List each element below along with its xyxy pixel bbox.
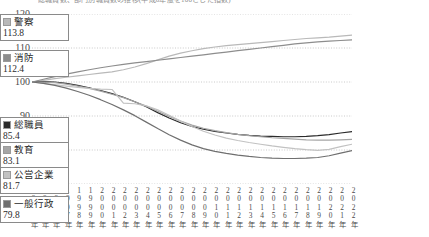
x-axis-tick-label: 2021年	[336, 186, 346, 226]
legend-series-value: 79.8	[3, 210, 66, 221]
legend-swatch-icon	[3, 200, 11, 208]
legend-series-name: 公営企業	[14, 170, 54, 181]
x-axis-tick-label: 2013年	[244, 186, 254, 226]
x-axis-tick-label: 1998年	[73, 186, 83, 226]
series-line	[32, 82, 352, 159]
legend-item-header: 消防	[3, 52, 66, 64]
y-axis-tick-label: 100	[4, 77, 30, 87]
x-axis: 1994年1995年1996年1997年1998年1999年2000年2001年…	[32, 186, 352, 237]
legend-swatch-icon	[3, 146, 11, 154]
x-axis-tick-label: 2002年	[118, 186, 128, 226]
x-axis-tick-label: 2008年	[187, 186, 197, 226]
x-axis-tick-label: 2004年	[141, 186, 151, 226]
x-axis-tick-label: 2019年	[313, 186, 323, 226]
legend-item-1[interactable]: 消防112.4	[0, 50, 69, 77]
series-line	[32, 35, 352, 82]
x-axis-tick-label: 2010年	[210, 186, 220, 226]
x-axis-tick-label: 2003年	[130, 186, 140, 226]
legend-item-header: 警察	[3, 16, 66, 28]
legend-series-value: 83.1	[3, 156, 66, 167]
legend-item-header: 総職員	[3, 119, 66, 131]
x-axis-tick-label: 2001年	[107, 186, 117, 226]
legend-series-value: 112.4	[3, 64, 66, 75]
x-axis-tick-label: 2017年	[290, 186, 300, 226]
x-axis-tick-label: 2009年	[198, 186, 208, 226]
x-axis-tick-label: 2020年	[324, 186, 334, 226]
series-line	[32, 82, 352, 140]
legend-series-value: 81.7	[3, 181, 66, 192]
x-axis-tick-label: 2000年	[96, 186, 106, 226]
legend-swatch-icon	[3, 54, 11, 62]
legend-swatch-icon	[3, 171, 11, 179]
x-axis-tick-label: 2006年	[164, 186, 174, 226]
legend-series-value: 85.4	[3, 131, 66, 142]
legend-series-name: 警察	[14, 17, 34, 28]
legend-item-2[interactable]: 総職員85.4	[0, 117, 69, 144]
x-axis-tick-label: 2022年	[347, 186, 357, 226]
legend-series-name: 総職員	[14, 120, 44, 131]
legend-item-header: 一般行政	[3, 198, 66, 210]
legend-item-5[interactable]: 一般行政79.8	[0, 196, 69, 223]
x-axis-tick-label: 2011年	[221, 186, 231, 226]
chart-caption: 総職員数、部門別職員数の推移(平成6年度を100とした指数)	[38, 0, 348, 4]
legend-series-value: 113.8	[3, 28, 66, 39]
legend-swatch-icon	[3, 18, 11, 26]
chart-container: 総職員数、部門別職員数の推移(平成6年度を100とした指数) 708090100…	[0, 0, 429, 237]
x-axis-tick-label: 2005年	[153, 186, 163, 226]
legend-series-name: 一般行政	[14, 199, 54, 210]
x-axis-tick-label: 2007年	[176, 186, 186, 226]
x-axis-tick-label: 2018年	[301, 186, 311, 226]
x-axis-tick-label: 2014年	[256, 186, 266, 226]
x-axis-tick-label: 2016年	[278, 186, 288, 226]
series-lines	[32, 14, 352, 184]
legend-item-3[interactable]: 教育83.1	[0, 142, 69, 169]
legend-series-name: 教育	[14, 145, 34, 156]
legend-item-4[interactable]: 公営企業81.7	[0, 167, 69, 194]
x-axis-tick-label: 2015年	[267, 186, 277, 226]
plot-area	[32, 14, 352, 184]
legend-item-header: 教育	[3, 144, 66, 156]
x-axis-tick-label: 2012年	[233, 186, 243, 226]
legend-item-0[interactable]: 警察113.8	[0, 14, 69, 41]
legend-swatch-icon	[3, 121, 11, 129]
legend-item-header: 公営企業	[3, 169, 66, 181]
legend-series-name: 消防	[14, 53, 34, 64]
x-axis-tick-label: 1999年	[84, 186, 94, 226]
series-line	[32, 82, 352, 137]
